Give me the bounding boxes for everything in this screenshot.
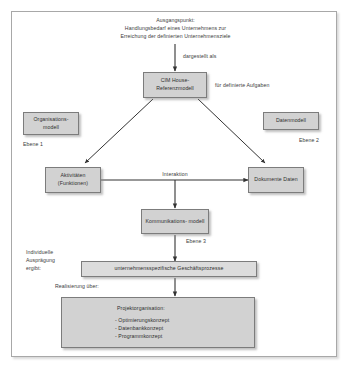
start-text: Ausgangspunkt: Handlungsbedarf eines Unt… <box>98 17 253 40</box>
label-ebene-2: Ebene 2 <box>263 137 319 145</box>
label-interaktion: Interaktion <box>145 171 205 179</box>
label-dargestellt-als: dargestellt als <box>183 53 253 61</box>
projektorganisation-item-0: - Optimierungskonzept <box>115 317 253 325</box>
node-geschaeftsprozesse[interactable]: unternehmensspezifische Geschäftsprozess… <box>81 261 257 277</box>
node-projektorganisation[interactable]: Projektorganisation: - Optimierungskonze… <box>61 297 255 348</box>
label-fuer-definierte-aufgaben: für definierte Aufgaben <box>215 82 305 90</box>
projektorganisation-item-1: - Datenbankkonzept <box>115 325 253 333</box>
node-cim-house-referenzmodell[interactable]: CIM House- Referenzmodell <box>143 72 207 98</box>
node-datenmodell[interactable]: Datenmodell <box>263 112 319 130</box>
label-individuelle-auspraegung: Individuelle Ausprägung ergibt: <box>26 249 88 272</box>
diagram-canvas: Ausgangspunkt: Handlungsbedarf eines Unt… <box>0 0 349 372</box>
node-kommunikationsmodell[interactable]: Kommunikations- modell <box>141 209 209 234</box>
label-realisierung-ueber: Realisierung über: <box>55 283 135 291</box>
projektorganisation-content: Projektorganisation: - Optimierungskonze… <box>63 305 253 340</box>
projektorganisation-title: Projektorganisation: <box>115 305 253 313</box>
label-ebene-1: Ebene 1 <box>23 141 79 149</box>
node-organisationsmodell[interactable]: Organisations- modell <box>23 112 79 135</box>
node-dokumente-daten[interactable]: Dokumente Daten <box>248 167 304 193</box>
label-ebene-3: Ebene 3 <box>186 238 236 246</box>
projektorganisation-item-2: - Programmkonzept <box>115 333 253 341</box>
node-aktivitaeten-funktionen[interactable]: Aktivitäten (Funktionen) <box>45 167 101 193</box>
